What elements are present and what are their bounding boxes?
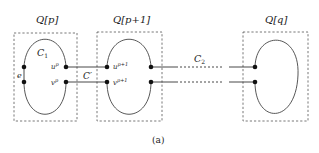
diagram-canvas: Q[p] Q[p+1] Q[q] C1 e up vp C′ up+1 vp+1… bbox=[0, 0, 319, 153]
label-vp: vp bbox=[51, 77, 59, 87]
group-label-qp1: Q[p+1] bbox=[113, 14, 150, 25]
cycle-qq bbox=[255, 40, 298, 113]
label-up1: up+1 bbox=[113, 61, 128, 71]
node-qp1-right-top bbox=[149, 65, 154, 70]
label-up: up bbox=[51, 61, 60, 71]
node-qp1-right-bottom bbox=[149, 80, 154, 85]
figure-caption: (a) bbox=[152, 135, 164, 145]
node-c1-left-top bbox=[22, 65, 27, 70]
node-c1-left-bottom bbox=[22, 80, 27, 85]
node-vp1 bbox=[105, 80, 110, 85]
label-c1: C1 bbox=[37, 47, 48, 59]
label-cprime: C′ bbox=[83, 71, 92, 81]
node-vp bbox=[64, 80, 69, 85]
node-qq-bottom bbox=[253, 80, 258, 85]
node-qq-top bbox=[253, 65, 258, 70]
label-vp1: vp+1 bbox=[113, 77, 128, 87]
node-up bbox=[64, 65, 69, 70]
node-up1 bbox=[105, 65, 110, 70]
group-box-qp bbox=[14, 33, 77, 121]
label-c2: C2 bbox=[194, 53, 205, 65]
cycle-c1-bottom-arc bbox=[24, 82, 66, 114]
group-box-qp1 bbox=[97, 32, 162, 121]
group-label-qq: Q[q] bbox=[265, 14, 288, 25]
group-label-qp: Q[p] bbox=[36, 14, 59, 25]
label-e: e bbox=[17, 71, 22, 80]
